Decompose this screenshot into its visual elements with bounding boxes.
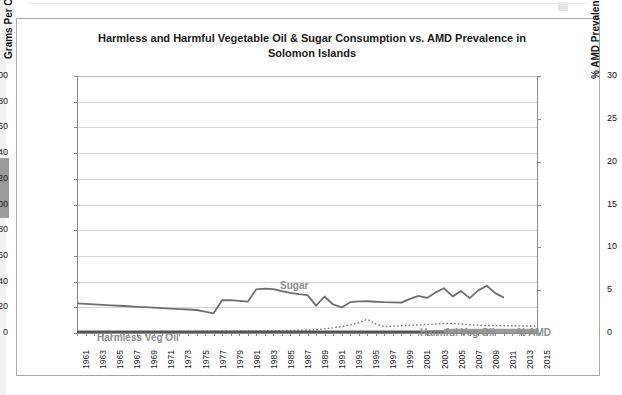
x-tick-1980 (239, 333, 240, 336)
x-tick-2010 (495, 333, 496, 336)
x-tick-1984 (273, 333, 274, 336)
x-axis-label-1987: 1987 (303, 350, 313, 369)
y-axis-title-right: % AMD Prevalence (590, 0, 601, 79)
x-tick-1992 (342, 333, 343, 336)
x-axis-label-2005: 2005 (457, 350, 467, 369)
x-axis-label-1975: 1975 (201, 350, 211, 369)
x-tick-1976 (205, 333, 206, 336)
x-tick-1987 (299, 333, 300, 336)
x-tick-1993 (350, 333, 351, 336)
x-tick-1989 (316, 333, 317, 336)
x-axis-label-1981: 1981 (252, 350, 262, 369)
y-axis-label-right-25: 25 (607, 113, 622, 123)
x-tick-1975 (197, 333, 198, 336)
x-tick-1997 (384, 333, 385, 336)
x-axis-label-1971: 1971 (166, 350, 176, 369)
chart-title-line-1: Harmless and Harmful Vegetable Oil & Sug… (98, 32, 526, 44)
x-axis-labels: 1961196319651967196919711973197519771979… (77, 337, 538, 377)
y-axis-label-left-180: 180 (0, 96, 8, 106)
series-label-harmless-veg-oil: Harmless Veg Oil (97, 332, 179, 343)
x-tick-1978 (222, 333, 223, 336)
y-axis-label-right-10: 10 (607, 241, 622, 251)
y-axis-label-left-160: 160 (0, 121, 8, 131)
x-tick-1994 (359, 333, 360, 336)
x-tick-1996 (376, 333, 377, 336)
x-tick-1963 (94, 333, 95, 336)
x-tick-1999 (401, 333, 402, 336)
x-axis-label-1977: 1977 (218, 350, 228, 369)
x-axis-label-1979: 1979 (235, 350, 245, 369)
chart-frame: Harmless and Harmful Vegetable Oil & Sug… (16, 18, 600, 376)
y-axis-label-left-200: 200 (0, 70, 8, 80)
x-tick-1985 (282, 333, 283, 336)
y-axis-title-left: Grams Per Capita Per Day (3, 0, 14, 59)
series-label-amd: % AMD (517, 327, 551, 338)
x-tick-1988 (308, 333, 309, 336)
x-tick-1973 (179, 333, 180, 336)
x-axis-label-2015: 2015 (542, 350, 552, 369)
x-axis-label-1967: 1967 (132, 350, 142, 369)
series-layer (77, 76, 538, 333)
y-axis-label-right-0: 0 (607, 327, 622, 337)
y-axis-label-left-40: 40 (0, 276, 8, 286)
y-axis-label-left-100: 100 (0, 199, 8, 209)
series-label-sugar: Sugar (280, 280, 308, 291)
y-axis-label-left-0: 0 (0, 327, 8, 337)
y-axis-label-right-5: 5 (607, 284, 622, 294)
y-axis-label-left-80: 80 (0, 224, 8, 234)
y-axis-label-left-140: 140 (0, 147, 8, 157)
x-axis-label-1963: 1963 (98, 350, 108, 369)
x-axis-label-1973: 1973 (183, 350, 193, 369)
x-axis-label-1999: 1999 (405, 350, 415, 369)
x-axis-label-1993: 1993 (354, 350, 364, 369)
x-tick-2012 (512, 333, 513, 336)
y-axis-label-left-20: 20 (0, 301, 8, 311)
x-tick-1986 (290, 333, 291, 336)
x-axis-label-1983: 1983 (269, 350, 279, 369)
x-tick-1998 (393, 333, 394, 336)
y-axis-label-right-15: 15 (607, 199, 622, 209)
x-axis-label-1991: 1991 (337, 350, 347, 369)
x-tick-1982 (256, 333, 257, 336)
x-axis-label-2001: 2001 (422, 350, 432, 369)
series-label-harmful-veg-oil: Harmful Veg Oil (420, 327, 494, 338)
y-axis-label-left-60: 60 (0, 250, 8, 260)
x-axis-label-1985: 1985 (286, 350, 296, 369)
x-axis-label-1995: 1995 (371, 350, 381, 369)
x-axis-label-2003: 2003 (440, 350, 450, 369)
x-tick-2000 (410, 333, 411, 336)
x-axis-label-2013: 2013 (525, 350, 535, 369)
page-scroll-marker (0, 158, 9, 218)
y-axis-label-left-120: 120 (0, 173, 8, 183)
x-tick-1995 (367, 333, 368, 336)
chart-title-line-2: Solomon Islands (268, 47, 356, 59)
x-axis-label-1961: 1961 (81, 350, 91, 369)
x-tick-1962 (86, 333, 87, 336)
x-tick-1991 (333, 333, 334, 336)
x-tick-1990 (325, 333, 326, 336)
x-tick-1979 (231, 333, 232, 336)
x-axis-label-2011: 2011 (508, 351, 518, 369)
x-axis-label-1965: 1965 (115, 350, 125, 369)
x-tick-1981 (248, 333, 249, 336)
chart-title: Harmless and Harmful Vegetable Oil & Sug… (77, 31, 547, 61)
x-tick-2011 (504, 333, 505, 336)
y-axis-label-right-30: 30 (607, 70, 622, 80)
page-top-rule (28, 3, 588, 4)
x-tick-1961 (77, 333, 78, 336)
x-axis-label-1989: 1989 (320, 350, 330, 369)
x-tick-1977 (214, 333, 215, 336)
y-axis-label-right-20: 20 (607, 156, 622, 166)
x-axis-label-1969: 1969 (149, 350, 159, 369)
x-axis-label-2007: 2007 (474, 350, 484, 369)
x-axis-label-2009: 2009 (491, 350, 501, 369)
x-tick-1974 (188, 333, 189, 336)
x-tick-1983 (265, 333, 266, 336)
x-axis-label-1997: 1997 (388, 350, 398, 369)
